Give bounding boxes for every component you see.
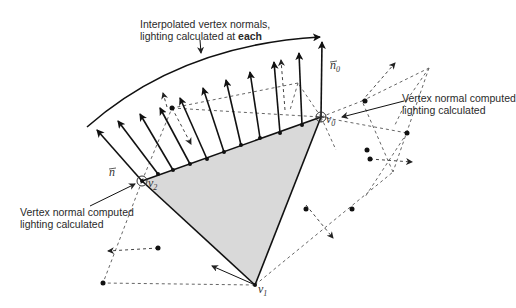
triangle-face (142, 117, 321, 285)
top-annotation-bold: each (238, 30, 262, 42)
right-annotation-line1: Vertex normal computed (402, 92, 516, 104)
left-callout-arrow (90, 184, 135, 206)
normal-label-n0: n0 (330, 58, 340, 74)
top-annotation: Interpolated vertex normals, lighting ca… (140, 18, 270, 42)
left-annotation: Vertex normal computed lighting calculat… (20, 206, 134, 230)
top-annotation-line2: lighting calculated at each (140, 30, 270, 42)
vertex-label-v1: v1 (258, 282, 267, 298)
interpolation-arc (87, 37, 320, 127)
vertex-v0-marker (316, 112, 326, 122)
right-annotation-line2: lighting calculated (402, 104, 516, 116)
vertex-label-v0: v0 (326, 112, 335, 128)
left-annotation-line2: lighting calculated (20, 218, 134, 230)
normal-label-n: n (109, 165, 115, 180)
vertex-label-v2: v2 (148, 176, 157, 192)
left-annotation-line1: Vertex normal computed (20, 206, 134, 218)
top-annotation-line1: Interpolated vertex normals, (140, 18, 270, 30)
right-callout-arrow (342, 101, 404, 117)
right-annotation: Vertex normal computed lighting calculat… (402, 92, 516, 116)
vertex-v1-marker (253, 283, 257, 287)
